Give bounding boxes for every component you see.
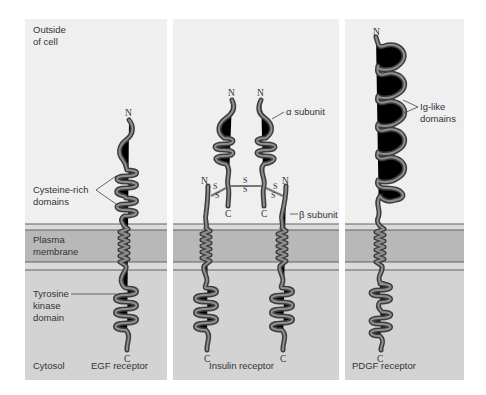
insulin-alpha-left-n: N [228,88,235,98]
insulin-alpha-right-c: C [261,209,267,219]
egf-n-terminus: N [125,108,132,118]
insulin-beta-right-n: N [282,176,289,186]
label-membrane-line2: membrane [33,246,78,257]
insulin-alpha-right-n: N [257,88,264,98]
pdgf-receptor-title: PDGF receptor [352,360,416,371]
svg-text:S: S [243,176,247,185]
label-outside-line2: of cell [33,36,58,47]
insulin-alpha-left-c: C [225,209,231,219]
svg-text:S: S [215,191,219,200]
insulin-beta-left-n: N [201,176,208,186]
label-cysteine-line1: Cysteine-rich [33,184,88,195]
svg-text:S: S [273,182,277,191]
pdgf-n-terminus: N [373,27,380,37]
beta-subunit-label: β subunit [299,209,338,220]
egf-receptor-title: EGF receptor [91,360,148,371]
label-tyrosine-line1: Tyrosine [33,288,69,299]
alpha-subunit-label: α subunit [286,106,325,117]
insulin-beta-right-c: C [280,354,286,364]
label-tyrosine-line2: kinase [33,300,60,311]
panel-pdgf-background [345,19,464,380]
label-outside-line1: Outside [33,24,66,35]
label-cysteine-line2: domains [33,196,69,207]
receptor-tyrosine-kinase-diagram: N C Outside of cell Cysteine-rich domain… [0,0,486,395]
label-cytosol: Cytosol [33,360,65,371]
label-tyrosine-line3: domain [33,312,64,323]
svg-text:S: S [213,182,217,191]
svg-text:S: S [271,191,275,200]
insulin-receptor-title: Insulin receptor [209,360,274,371]
ig-label-line2: domains [420,113,456,124]
label-membrane-line1: Plasma [33,234,65,245]
ig-label-line1: Ig-like [420,101,445,112]
svg-text:S: S [243,185,247,194]
